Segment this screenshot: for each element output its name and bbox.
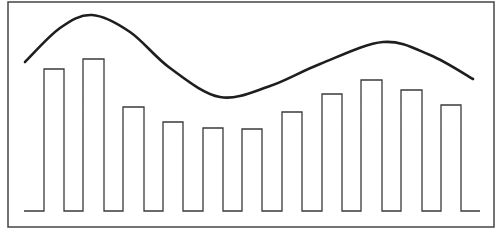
chart-frame <box>8 2 494 227</box>
trend-curve <box>25 15 473 98</box>
chart-canvas <box>0 0 499 238</box>
bar-series-outline <box>24 59 480 211</box>
